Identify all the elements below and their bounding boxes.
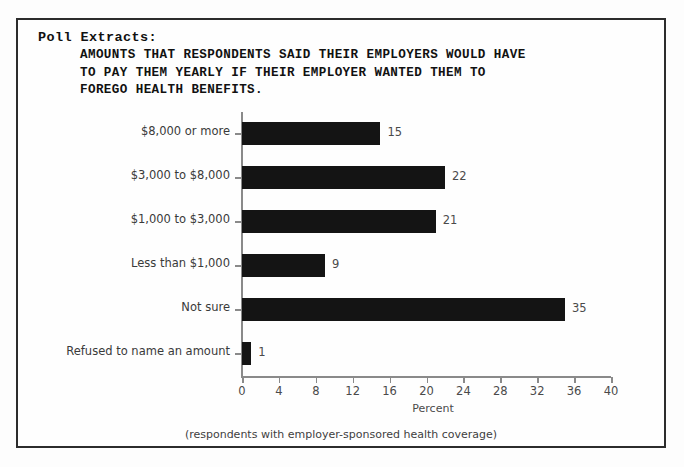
- chart-footnote: (respondents with employer-sponsored hea…: [18, 428, 664, 441]
- category-tick: [235, 309, 242, 311]
- bar: [242, 298, 565, 321]
- category-label: Less than $1,000: [131, 256, 230, 270]
- bar-row: $1,000 to $3,00021: [18, 200, 664, 244]
- x-tick-mark: [427, 377, 429, 383]
- x-tick-mark: [316, 377, 318, 383]
- bar-chart-plot: $8,000 or more15$3,000 to $8,00022$1,000…: [18, 20, 664, 446]
- x-tick-label: 32: [530, 384, 545, 398]
- bar-row: $3,000 to $8,00022: [18, 156, 664, 200]
- x-tick-mark: [463, 377, 465, 383]
- x-tick-label: 0: [238, 384, 245, 398]
- x-tick-label: 20: [419, 384, 434, 398]
- bar-value-label: 9: [332, 257, 339, 271]
- x-axis-title: Percent: [412, 402, 453, 415]
- x-tick-mark: [279, 377, 281, 383]
- bar-row: $8,000 or more15: [18, 112, 664, 156]
- category-tick: [235, 353, 242, 355]
- bar-value-label: 1: [258, 345, 265, 359]
- x-tick-label: 36: [567, 384, 582, 398]
- bar-value-label: 15: [387, 125, 402, 139]
- bar-value-label: 22: [452, 169, 467, 183]
- bar-row: Not sure35: [18, 288, 664, 332]
- x-tick-mark: [390, 377, 392, 383]
- x-tick-label: 28: [493, 384, 508, 398]
- x-tick-mark: [500, 377, 502, 383]
- bar-row: Refused to name an amount1: [18, 332, 664, 376]
- x-tick-label: 4: [275, 384, 282, 398]
- bar: [242, 210, 436, 233]
- bar-value-label: 21: [443, 213, 458, 227]
- bar-row: Less than $1,0009: [18, 244, 664, 288]
- x-tick-mark: [353, 377, 355, 383]
- bar: [242, 254, 325, 277]
- x-tick-label: 8: [312, 384, 319, 398]
- category-label: $3,000 to $8,000: [131, 168, 230, 182]
- bar-value-label: 35: [572, 301, 587, 315]
- category-label: $8,000 or more: [141, 124, 230, 138]
- category-tick: [235, 221, 242, 223]
- category-label: Not sure: [181, 300, 230, 314]
- category-tick: [235, 265, 242, 267]
- category-tick: [235, 177, 242, 179]
- x-tick-mark: [574, 377, 576, 383]
- category-tick: [235, 133, 242, 135]
- x-tick-mark: [537, 377, 539, 383]
- bar: [242, 166, 445, 189]
- bar: [242, 342, 251, 365]
- category-label: $1,000 to $3,000: [131, 212, 230, 226]
- x-tick-label: 40: [604, 384, 619, 398]
- x-tick-mark: [611, 377, 613, 383]
- x-tick-label: 12: [345, 384, 360, 398]
- poll-extracts-chart-page: Poll Extracts: AMOUNTS THAT RESPONDENTS …: [0, 0, 684, 467]
- x-tick-label: 16: [382, 384, 397, 398]
- x-tick-mark: [242, 377, 244, 383]
- category-label: Refused to name an amount: [66, 344, 230, 358]
- bar: [242, 122, 380, 145]
- chart-frame: Poll Extracts: AMOUNTS THAT RESPONDENTS …: [16, 18, 666, 448]
- x-tick-label: 24: [456, 384, 471, 398]
